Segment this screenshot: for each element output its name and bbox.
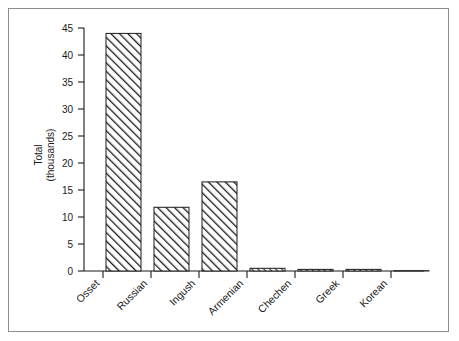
bar-chart-plot: 45 40 35 30 25 20 xyxy=(0,0,459,341)
bar-russian[interactable] xyxy=(154,207,189,271)
y-axis: 45 40 35 30 25 20 xyxy=(62,23,84,277)
y-tick-label: 30 xyxy=(62,104,74,115)
y-tick-5: 5 xyxy=(67,239,84,250)
x-tick-labels: Osset Russian Ingush Armenian Chechen Gr… xyxy=(74,276,390,317)
y-tick-25: 25 xyxy=(62,131,84,142)
y-tick-0: 0 xyxy=(67,266,84,277)
x-tick-label-chechen: Chechen xyxy=(255,277,293,315)
x-tick-label-osset: Osset xyxy=(74,277,102,305)
y-tick-20: 20 xyxy=(62,158,84,169)
x-tick-label-ingush: Ingush xyxy=(167,277,198,308)
bar-greek[interactable] xyxy=(346,269,381,271)
y-tick-label: 40 xyxy=(62,50,74,61)
x-tick-label-greek: Greek xyxy=(313,276,342,305)
x-tick-label-russian: Russian xyxy=(114,277,149,312)
x-tick-label-armenian: Armenian xyxy=(205,277,245,317)
bar-osset[interactable] xyxy=(106,33,141,271)
y-tick-label: 25 xyxy=(62,131,74,142)
x-tick-label-korean: Korean xyxy=(357,277,390,310)
y-axis-title-line-1: Total xyxy=(33,144,44,165)
y-tick-label: 10 xyxy=(62,212,74,223)
y-tick-label: 20 xyxy=(62,158,74,169)
y-tick-label: 15 xyxy=(62,185,74,196)
y-axis-title-line-2: (thousands) xyxy=(45,129,56,182)
bar-armenian[interactable] xyxy=(250,268,285,271)
bars-group xyxy=(106,33,429,271)
y-axis-title: Total (thousands) xyxy=(33,129,56,182)
y-tick-label: 5 xyxy=(67,239,73,250)
y-tick-30: 30 xyxy=(62,104,84,115)
y-tick-label: 0 xyxy=(67,266,73,277)
y-tick-15: 15 xyxy=(62,185,84,196)
bar-chechen[interactable] xyxy=(298,269,333,271)
y-tick-label: 45 xyxy=(62,23,74,34)
y-tick-45: 45 xyxy=(62,23,84,34)
bar-ingush[interactable] xyxy=(202,182,237,271)
y-tick-10: 10 xyxy=(62,212,84,223)
y-tick-label: 35 xyxy=(62,77,74,88)
y-tick-35: 35 xyxy=(62,77,84,88)
chart-figure: 45 40 35 30 25 20 xyxy=(0,0,459,341)
y-tick-40: 40 xyxy=(62,50,84,61)
x-axis xyxy=(84,271,424,278)
